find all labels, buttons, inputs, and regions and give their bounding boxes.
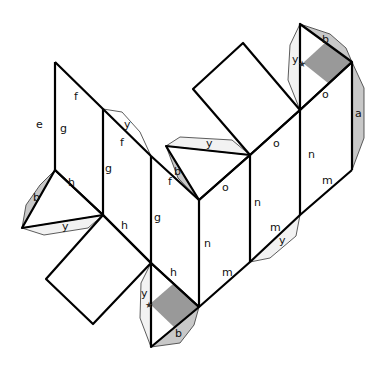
- edge-label-y4: y: [279, 234, 286, 247]
- net-svg: ★ ★ egfyfgbfyooabynnonmmymghbyhhyb: [0, 0, 380, 366]
- edge-label-y2: y: [206, 137, 213, 150]
- edge-label-m3: m: [222, 266, 233, 279]
- edge-label-a1: a: [355, 107, 362, 120]
- edge-label-h3: h: [170, 266, 177, 279]
- edge-label-b4: b: [175, 327, 182, 340]
- edge-label-e1: e: [36, 118, 43, 131]
- edge-label-y3: y: [292, 53, 299, 66]
- edge-label-y1: y: [124, 118, 131, 131]
- star-marker-bottom: ★: [145, 300, 153, 310]
- edge-label-h1: h: [68, 176, 75, 189]
- edge-label-n3: n: [204, 237, 211, 250]
- edge-label-y5: y: [62, 220, 69, 233]
- edge-label-m1: m: [322, 174, 333, 187]
- edge-label-y6: y: [141, 287, 148, 300]
- edge-label-g3: g: [154, 211, 161, 224]
- edge-label-n2: n: [254, 196, 261, 209]
- edge-label-f1: f: [74, 90, 79, 103]
- edge-label-b3: b: [33, 191, 40, 204]
- edge-label-n1: n: [308, 148, 315, 161]
- edge-label-g2: g: [105, 162, 112, 175]
- edge-labels: egfyfgbfyooabynnonmmymghbyhhyb: [33, 33, 362, 340]
- edge-top-diagonal: [55, 62, 199, 200]
- edge-label-o1: o: [273, 137, 280, 150]
- edge-label-o2: o: [322, 88, 329, 101]
- edge-label-o3: o: [222, 181, 229, 194]
- edge-label-m2: m: [270, 221, 281, 234]
- edge-label-g1: g: [60, 122, 67, 135]
- edge-label-b2: b: [322, 33, 329, 46]
- star-marker-top: ★: [298, 59, 306, 69]
- edge-label-f2: f: [120, 136, 125, 149]
- polyhedron-net-diagram: ★ ★ egfyfgbfyooabynnonmmymghbyhhyb: [0, 0, 380, 366]
- edge-label-h2: h: [121, 219, 128, 232]
- edge-label-b1: b: [174, 165, 181, 178]
